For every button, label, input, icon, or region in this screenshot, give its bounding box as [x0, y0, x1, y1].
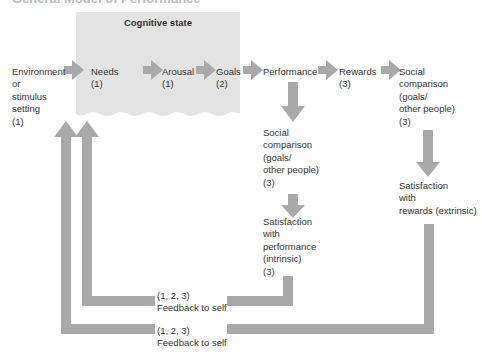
label-line: (goals/ — [263, 152, 319, 164]
label-line: rewards (extrinsic) — [399, 205, 477, 217]
label-line: Goals — [216, 66, 241, 78]
label-line: performance — [263, 241, 316, 253]
label-line: other people) — [399, 103, 455, 115]
label-line: (3) — [263, 266, 316, 278]
label-line: (3) — [339, 78, 377, 90]
label-line: (1) — [91, 78, 118, 90]
flow-arrows — [0, 0, 482, 358]
arrow-env-needs-icon — [64, 60, 84, 80]
feedback-inner-loop-icon — [75, 121, 293, 306]
node-arousal: Arousal (1) — [162, 66, 194, 91]
node-performance: Performance — [263, 66, 317, 78]
label-line: Needs — [91, 66, 118, 78]
label-line: stimulus — [12, 91, 65, 103]
arrow-needs-arousal-icon — [143, 60, 163, 80]
arrow-social-satisfaction-perf-icon — [281, 194, 305, 218]
arrow-performance-rewards-icon — [318, 60, 338, 80]
arrow-performance-down-icon — [281, 82, 305, 122]
label-line: Arousal — [162, 66, 194, 78]
label-line: or — [12, 78, 65, 90]
label-line: (goals/ — [399, 91, 455, 103]
node-social-comparison-performance: Social comparison (goals/ other people) … — [263, 127, 319, 189]
node-social-comparison-rewards: Social comparison (goals/ other people) … — [399, 66, 455, 128]
arrow-arousal-goals-icon — [196, 60, 216, 80]
label-line: Social — [263, 127, 319, 139]
label-line: Social — [399, 66, 455, 78]
node-goals: Goals (2) — [216, 66, 241, 91]
label-line: (1) — [162, 78, 194, 90]
label-line: Satisfaction — [399, 180, 477, 192]
label-line: comparison — [399, 78, 455, 90]
label-line: (1, 2, 3) — [157, 290, 227, 302]
label-line: Satisfaction — [263, 216, 316, 228]
label-line: (3) — [263, 177, 319, 189]
label-line: (3) — [399, 116, 455, 128]
node-feedback-outer: (1, 2, 3) Feedback to self — [157, 325, 227, 350]
label-line: other people) — [263, 164, 319, 176]
label-line: Performance — [263, 66, 317, 78]
node-satisfaction-rewards: Satisfaction with rewards (extrinsic) — [399, 180, 477, 217]
label-line: (intrinsic) — [263, 253, 316, 265]
node-rewards: Rewards (3) — [339, 66, 377, 91]
label-line: Feedback to self — [157, 302, 227, 314]
arrow-goals-performance-icon — [243, 60, 263, 80]
node-needs: Needs (1) — [91, 66, 118, 91]
label-line: (1) — [12, 116, 65, 128]
label-line: with — [263, 228, 316, 240]
label-line: Rewards — [339, 66, 377, 78]
label-line: setting — [12, 103, 65, 115]
label-line: Feedback to self — [157, 337, 227, 349]
label-line: Environment — [12, 66, 65, 78]
arrow-social-satisfaction-rewards-icon — [416, 130, 440, 177]
node-environment: Environment or stimulus setting (1) — [12, 66, 65, 128]
label-line: with — [399, 192, 477, 204]
node-satisfaction-performance: Satisfaction with performance (intrinsic… — [263, 216, 316, 278]
label-line: (1, 2, 3) — [157, 325, 227, 337]
label-line: comparison — [263, 139, 319, 151]
arrow-rewards-social-icon — [381, 60, 401, 80]
label-line: (2) — [216, 78, 241, 90]
node-feedback-inner: (1, 2, 3) Feedback to self — [157, 290, 227, 315]
